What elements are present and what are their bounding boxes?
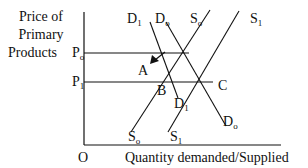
y-axis-title: Price of Primary Products — [8, 8, 74, 62]
curve-label-d1-bottom: D1 — [174, 97, 189, 112]
curve-label-s0: So — [190, 12, 202, 27]
curve-label-d0: Do — [155, 12, 170, 27]
point-label-b: B — [157, 84, 166, 98]
origin-label: O — [78, 151, 88, 165]
curve-label-s1-bottom: S1 — [170, 130, 182, 145]
x-axis-title: Quantity demanded/Supplied — [125, 151, 289, 165]
point-label-a: A — [138, 64, 148, 78]
price-label-p1: P1 — [72, 75, 84, 90]
y-axis-title-line: Products — [8, 44, 74, 62]
y-axis-title-line: Price of — [8, 8, 74, 26]
curve-label-d0-bottom: Do — [223, 115, 238, 130]
curve-label-d1: D1 — [127, 12, 142, 27]
curve-label-s1: S1 — [250, 12, 262, 27]
curve-label-s0-bottom: So — [128, 130, 140, 145]
point-label-c: C — [218, 79, 227, 93]
y-axis-title-line: Primary — [8, 26, 74, 44]
price-label-p0: Po — [72, 46, 84, 61]
